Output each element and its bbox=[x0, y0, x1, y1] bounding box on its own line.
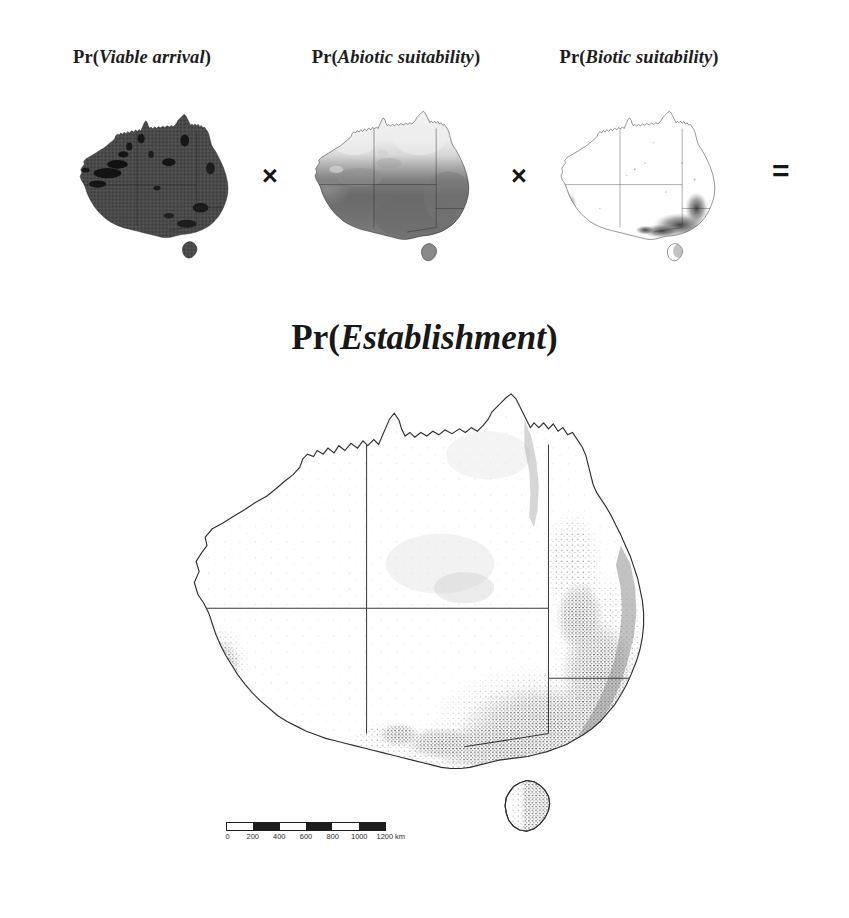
scale-tick-600: 600 bbox=[300, 832, 312, 841]
map-viable-arrival bbox=[58, 82, 256, 302]
scale-tick-1200: 1200 km bbox=[377, 832, 405, 841]
panel-label-prefix: Pr( bbox=[312, 47, 338, 67]
panel-label-suffix: ) bbox=[712, 47, 718, 67]
multiply-operator-1: × bbox=[262, 163, 278, 190]
map-abiotic-suitability bbox=[292, 82, 498, 302]
abiotic-suitability-raster bbox=[302, 111, 473, 261]
main-title-term: Establishment bbox=[340, 318, 546, 357]
panel-label-abiotic-suitability: Pr(Abiotic suitability) bbox=[280, 47, 512, 68]
scale-bar-segment bbox=[253, 823, 279, 830]
scale-tick-0: 0 bbox=[226, 832, 230, 841]
scale-tick-1000: 1000 bbox=[351, 832, 367, 841]
panel-label-suffix: ) bbox=[205, 47, 211, 67]
scale-tick-800: 800 bbox=[327, 832, 339, 841]
scale-bar: 0 200 400 600 800 1000 1200 km bbox=[226, 822, 386, 844]
main-title-suffix: ) bbox=[546, 318, 558, 357]
scale-bar-segment bbox=[332, 823, 358, 830]
establishment-hotspot-speckle bbox=[127, 365, 729, 895]
scale-bar-segment bbox=[359, 823, 385, 830]
main-title-prefix: Pr( bbox=[291, 318, 340, 357]
map-establishment bbox=[108, 365, 748, 895]
scale-bar-segment bbox=[306, 823, 332, 830]
panel-label-biotic-suitability: Pr(Biotic suitability) bbox=[528, 47, 750, 68]
viable-arrival-raster bbox=[80, 114, 228, 258]
scale-tick-200: 200 bbox=[247, 832, 259, 841]
map-biotic-suitability bbox=[538, 82, 744, 302]
scale-tick-400: 400 bbox=[273, 832, 285, 841]
panel-label-term: Viable arrival bbox=[99, 47, 205, 67]
equals-operator: = bbox=[772, 156, 790, 186]
biotic-suitability-raster bbox=[561, 111, 715, 261]
page-title: Pr(Establishment) bbox=[0, 318, 849, 358]
panel-label-suffix: ) bbox=[474, 47, 480, 67]
panel-label-prefix: Pr( bbox=[560, 47, 586, 67]
scale-bar-segment bbox=[280, 823, 306, 830]
panel-label-prefix: Pr( bbox=[73, 47, 99, 67]
scale-bar-ticks: 0 200 400 600 800 1000 1200 km bbox=[226, 831, 386, 844]
tasmania-speckle bbox=[512, 781, 557, 835]
panel-label-term: Abiotic suitability bbox=[338, 47, 474, 67]
panel-label-term: Biotic suitability bbox=[586, 47, 713, 67]
figure-canvas: Pr(Viable arrival) Pr(Abiotic suitabilit… bbox=[0, 0, 849, 918]
panel-label-viable-arrival: Pr(Viable arrival) bbox=[34, 47, 250, 68]
scale-bar-segment bbox=[227, 823, 253, 830]
establishment-raster bbox=[127, 365, 729, 895]
scale-bar-segments bbox=[226, 822, 386, 831]
multiply-operator-2: × bbox=[511, 163, 527, 190]
